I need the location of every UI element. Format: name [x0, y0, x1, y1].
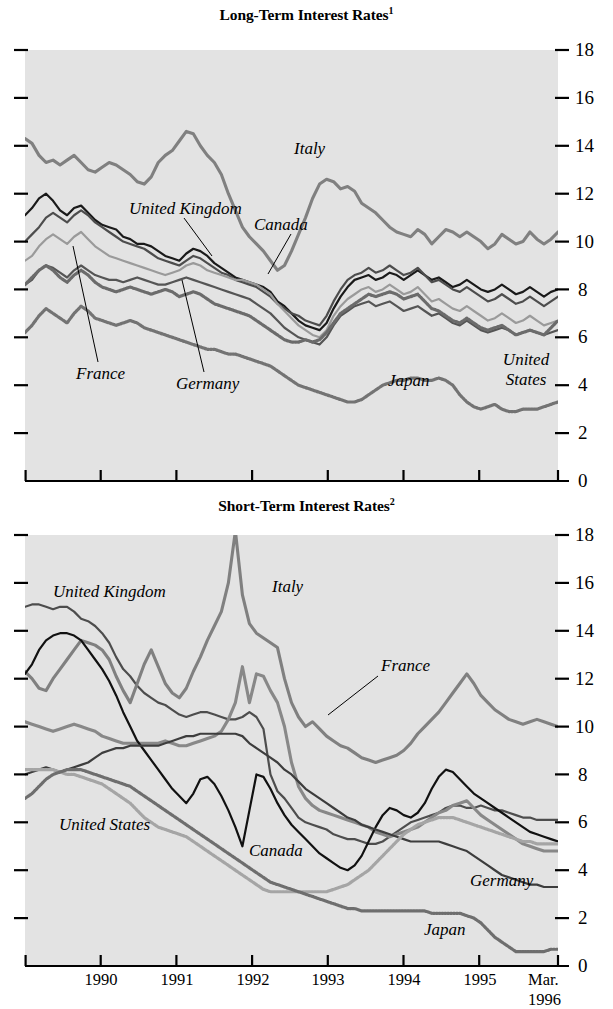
ytick-label-6: 6 — [578, 812, 588, 831]
ytick-label-14: 14 — [575, 136, 594, 155]
ytick-label-2: 2 — [578, 423, 588, 442]
ytick-label-8: 8 — [578, 765, 588, 784]
panel-short-term: Short-Term Interest Rates2 — [0, 490, 613, 1009]
xtick-label-1993: 1993 — [293, 971, 363, 988]
ytick-label-14: 14 — [575, 621, 594, 640]
series-label-germany-short: Germany — [470, 872, 533, 890]
axis-frame-short-term — [0, 490, 613, 1009]
series-label-united-kingdom-short: United Kingdom — [53, 583, 166, 601]
united-states-line2: States — [506, 370, 547, 389]
series-label-france-long: France — [76, 365, 125, 383]
united-states-line1: United — [503, 350, 549, 369]
panel-long-term: Long-Term Interest Rates1 — [0, 0, 613, 490]
ytick-label-16: 16 — [575, 88, 594, 107]
series-label-canada-short: Canada — [249, 842, 303, 860]
series-label-united-states-long: United States — [489, 350, 563, 390]
xtick-label-1994: 1994 — [369, 971, 439, 988]
ytick-label-6: 6 — [578, 327, 588, 346]
ytick-label-18: 18 — [575, 40, 594, 59]
ytick-label-16: 16 — [575, 573, 594, 592]
series-label-france-short: France — [381, 657, 430, 675]
series-label-united-kingdom-long: United Kingdom — [129, 200, 242, 218]
xtick-label-1996: 1996 — [528, 991, 588, 1008]
series-label-japan-short: Japan — [424, 921, 466, 939]
ytick-label-2: 2 — [578, 908, 588, 927]
axis-frame-long-term — [0, 0, 613, 490]
figure-root: Long-Term Interest Rates1 — [0, 0, 613, 1009]
ytick-label-18: 18 — [575, 525, 594, 544]
xtick-label-1990: 1990 — [66, 971, 136, 988]
ytick-label-8: 8 — [578, 280, 588, 299]
ytick-label-12: 12 — [575, 669, 594, 688]
xtick-label-1992: 1992 — [218, 971, 288, 988]
ytick-label-0: 0 — [578, 471, 588, 490]
series-label-japan-long: Japan — [388, 372, 430, 390]
xtick-label-1995: 1995 — [445, 971, 515, 988]
xtick-label-mar: Mar. — [528, 971, 588, 988]
series-label-united-states-short: United States — [59, 816, 150, 834]
xtick-label-1991: 1991 — [142, 971, 212, 988]
ytick-label-10: 10 — [575, 232, 594, 251]
series-label-italy-long: Italy — [294, 140, 325, 158]
series-label-italy-short: Italy — [272, 578, 303, 596]
ytick-label-10: 10 — [575, 717, 594, 736]
ytick-label-4: 4 — [578, 375, 588, 394]
ytick-label-12: 12 — [575, 184, 594, 203]
series-label-canada-long: Canada — [254, 216, 308, 234]
ytick-label-4: 4 — [578, 860, 588, 879]
series-label-germany-long: Germany — [176, 375, 239, 393]
